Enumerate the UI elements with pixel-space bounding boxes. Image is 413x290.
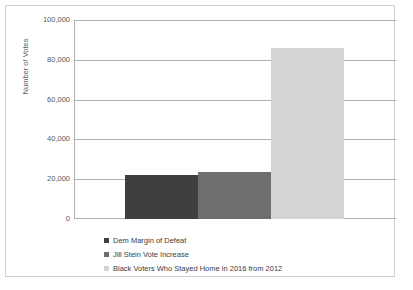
bar-black-voters-who-stayed-home[interactable] (271, 48, 344, 219)
y-axis-tick-labels: 100,000 80,000 60,000 40,000 20,000 0 (10, 20, 70, 219)
legend-swatch-icon-1 (104, 252, 109, 257)
chart-frame: 100,000 80,000 60,000 40,000 20,000 0 Nu… (5, 5, 395, 277)
legend-label-1: Jill Stein Vote Increase (113, 250, 189, 259)
y-tick-label-40000: 40,000 (14, 135, 70, 143)
y-axis-title: Number of Votes (21, 12, 30, 122)
gridline-40000 (74, 139, 396, 140)
legend-label-0: Dem Margin of Defeat (113, 236, 186, 245)
plot-area (74, 20, 396, 219)
y-tick-label-0: 0 (14, 215, 70, 223)
legend-item-dem-margin-of-defeat[interactable]: Dem Margin of Defeat (104, 233, 384, 247)
legend-item-black-voters-stayed-home[interactable]: Black Voters Who Stayed Home in 2016 fro… (104, 261, 384, 275)
legend-item-jill-stein-vote-increase[interactable]: Jill Stein Vote Increase (104, 247, 384, 261)
legend-swatch-icon-0 (104, 238, 109, 243)
bar-jill-stein-vote-increase[interactable] (198, 172, 271, 219)
gridline-100000 (74, 20, 396, 21)
y-axis-line (74, 20, 75, 219)
legend-label-2: Black Voters Who Stayed Home in 2016 fro… (113, 264, 282, 273)
gridline-60000 (74, 100, 396, 101)
chart-legend: Dem Margin of Defeat Jill Stein Vote Inc… (104, 233, 384, 275)
legend-swatch-icon-2 (104, 266, 109, 271)
gridline-80000 (74, 60, 396, 61)
bar-dem-margin-of-defeat[interactable] (125, 175, 198, 219)
y-tick-label-20000: 20,000 (14, 175, 70, 183)
